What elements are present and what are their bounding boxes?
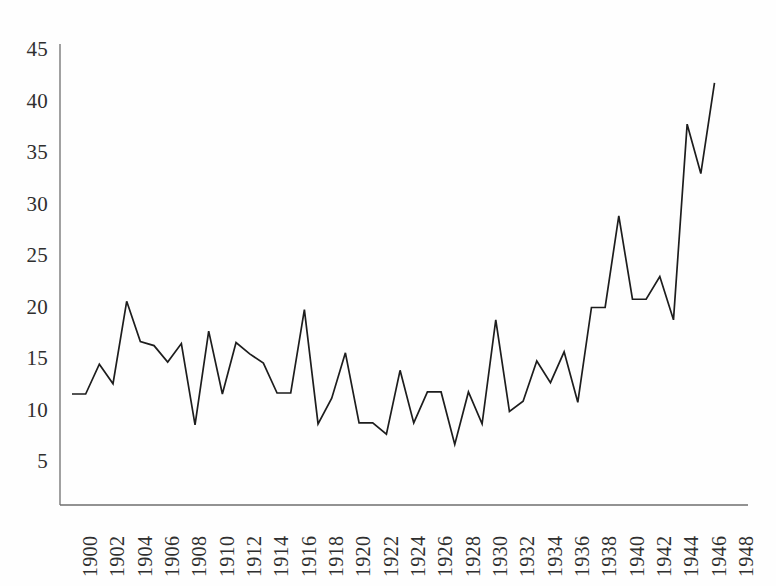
y-tick-label: 45 bbox=[6, 39, 48, 60]
x-tick-label: 1924 bbox=[408, 536, 428, 577]
x-tick-label: 1946 bbox=[709, 536, 729, 577]
y-tick-label: 20 bbox=[6, 297, 48, 318]
x-tick-label: 1932 bbox=[517, 536, 537, 577]
data-series-line bbox=[72, 83, 714, 445]
x-tick-label: 1936 bbox=[572, 536, 592, 577]
x-tick-label: 1930 bbox=[490, 536, 510, 577]
x-tick-label: 1916 bbox=[299, 536, 319, 577]
y-tick-label: 30 bbox=[6, 194, 48, 215]
y-tick-label: 10 bbox=[6, 400, 48, 421]
y-tick-label: 35 bbox=[6, 142, 48, 163]
x-tick-label: 1912 bbox=[244, 536, 264, 577]
x-tick-label: 1908 bbox=[189, 536, 209, 577]
y-tick-label: 5 bbox=[6, 451, 48, 472]
x-tick-label: 1942 bbox=[654, 536, 674, 577]
x-tick-label: 1900 bbox=[80, 536, 100, 577]
x-tick-label: 1920 bbox=[353, 536, 373, 577]
x-tick-label: 1926 bbox=[435, 536, 455, 577]
x-tick-label: 1944 bbox=[681, 536, 701, 577]
x-tick-label: 1904 bbox=[135, 536, 155, 577]
x-tick-label: 1948 bbox=[736, 536, 756, 577]
x-tick-label: 1940 bbox=[627, 536, 647, 577]
x-tick-label: 1934 bbox=[545, 536, 565, 577]
line-chart: 51015202530354045 1900190219041906190819… bbox=[0, 0, 776, 586]
x-tick-label: 1910 bbox=[217, 536, 237, 577]
y-tick-label: 40 bbox=[6, 91, 48, 112]
x-tick-label: 1928 bbox=[463, 536, 483, 577]
y-tick-label: 25 bbox=[6, 245, 48, 266]
x-tick-label: 1914 bbox=[271, 536, 291, 577]
x-tick-label: 1938 bbox=[599, 536, 619, 577]
y-tick-label: 15 bbox=[6, 348, 48, 369]
chart-plot-area bbox=[0, 0, 776, 586]
x-tick-label: 1922 bbox=[381, 536, 401, 577]
x-tick-label: 1906 bbox=[162, 536, 182, 577]
x-tick-label: 1902 bbox=[107, 536, 127, 577]
x-tick-label: 1918 bbox=[326, 536, 346, 577]
